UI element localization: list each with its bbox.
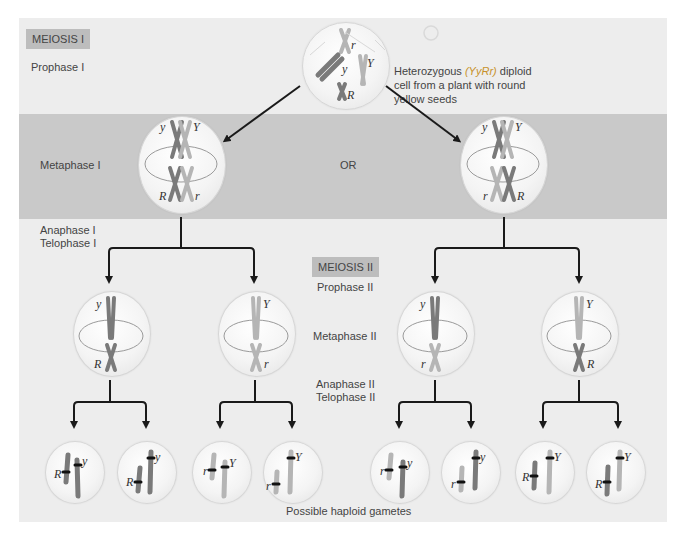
metaphase-2-chromosomes: y R Y r y r Y R <box>79 297 611 371</box>
svg-text:Y: Y <box>515 120 523 134</box>
svg-text:R: R <box>53 467 62 481</box>
svg-text:Y: Y <box>624 450 632 464</box>
arrow-parent-to-right <box>386 86 458 140</box>
branch-arrows-meiosis-2 <box>74 380 618 425</box>
svg-text:Y: Y <box>586 297 594 311</box>
gamete-chromosomes: R y R y r Y r Y r y r y R Y R Y <box>53 450 632 496</box>
svg-text:y: y <box>341 62 348 76</box>
svg-text:r: r <box>203 464 208 478</box>
svg-text:R: R <box>594 477 603 491</box>
svg-text:y: y <box>159 120 166 134</box>
svg-text:r: r <box>351 38 356 52</box>
svg-text:r: r <box>264 357 269 371</box>
arrow-parent-to-left <box>226 86 300 140</box>
metaphase-1-right-chromosomes: y Y r R <box>467 120 539 203</box>
svg-text:R: R <box>586 357 595 371</box>
parent-chromosomes: r y Y R <box>310 30 385 102</box>
svg-text:Y: Y <box>295 450 303 464</box>
svg-text:r: r <box>266 479 271 493</box>
svg-text:y: y <box>481 120 488 134</box>
svg-text:Y: Y <box>554 450 562 464</box>
svg-text:y: y <box>95 297 102 311</box>
svg-text:R: R <box>125 475 134 489</box>
svg-text:r: r <box>195 189 200 203</box>
svg-text:r: r <box>451 477 456 491</box>
svg-text:Y: Y <box>263 297 271 311</box>
svg-text:R: R <box>346 88 355 102</box>
svg-text:Y: Y <box>229 456 237 470</box>
svg-text:r: r <box>483 189 488 203</box>
svg-text:R: R <box>93 357 102 371</box>
svg-text:r: r <box>380 464 385 478</box>
svg-text:R: R <box>158 189 167 203</box>
svg-text:R: R <box>521 470 530 484</box>
svg-text:R: R <box>516 189 525 203</box>
svg-text:Y: Y <box>367 56 375 70</box>
diagram-overlay: r y Y R y Y R r <box>0 0 684 536</box>
svg-text:Y: Y <box>193 120 201 134</box>
branch-arrows-meiosis-1 <box>109 217 579 280</box>
metaphase-1-left-chromosomes: y Y R r <box>145 120 217 203</box>
svg-text:y: y <box>419 297 426 311</box>
cell-icon <box>424 26 438 40</box>
svg-text:r: r <box>421 357 426 371</box>
